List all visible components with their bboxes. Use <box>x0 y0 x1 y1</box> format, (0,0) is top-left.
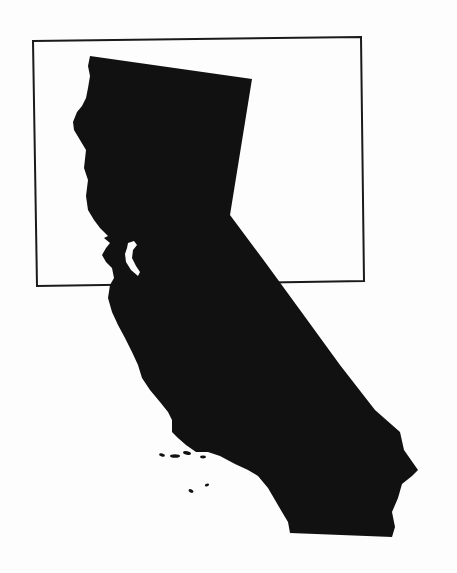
map-canvas: California <box>0 0 457 573</box>
california-silhouette <box>73 56 418 537</box>
california-map <box>0 0 457 573</box>
channel-islands <box>159 451 210 494</box>
